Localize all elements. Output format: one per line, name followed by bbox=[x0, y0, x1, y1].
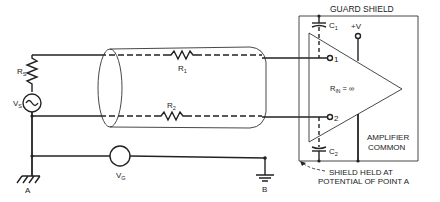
c2-label: C2 bbox=[329, 147, 338, 157]
shielded-cable bbox=[98, 47, 266, 128]
guard-shield-label: GUARD SHIELD bbox=[330, 4, 394, 14]
amplifier-triangle bbox=[309, 33, 402, 142]
r1-resistor bbox=[168, 51, 196, 59]
vg-source-icon bbox=[110, 146, 130, 166]
ground-return bbox=[32, 146, 274, 181]
plus-v-terminal bbox=[356, 34, 361, 39]
junction-dot bbox=[317, 159, 320, 162]
r2-label: R2 bbox=[167, 101, 176, 111]
input-1-terminal bbox=[328, 56, 333, 61]
earth-ground-icon bbox=[256, 175, 274, 181]
source-circuit bbox=[17, 55, 100, 183]
vs-label: VS bbox=[13, 99, 22, 109]
input-1-label: 1 bbox=[334, 55, 339, 64]
rs-resistor bbox=[27, 55, 37, 92]
vg-label: VG bbox=[116, 171, 126, 181]
rin-label: RIN = ∞ bbox=[330, 84, 354, 94]
circuit-diagram: GUARD SHIELD C1 +V 1 2 RIN = ∞ AMPLIFIER… bbox=[0, 0, 440, 202]
ground-wire-right bbox=[130, 156, 265, 158]
plus-v-label: +V bbox=[351, 22, 362, 31]
rs-label: RS bbox=[17, 67, 27, 77]
c1-label: C1 bbox=[329, 21, 338, 31]
amplifier-common-label-2: COMMON bbox=[368, 143, 406, 152]
c1-plate-bottom bbox=[312, 26, 326, 28]
c2-plate-top bbox=[312, 147, 326, 149]
input-2-terminal bbox=[328, 115, 333, 120]
shield-note-line-1: SHIELD HELD AT bbox=[329, 168, 393, 177]
input-2-label: 2 bbox=[334, 114, 339, 123]
labels: GUARD SHIELD C1 +V 1 2 RIN = ∞ AMPLIFIER… bbox=[13, 4, 410, 195]
chassis-ground-icon bbox=[17, 176, 40, 183]
shield-note-line-2: POTENTIAL OF POINT A bbox=[318, 177, 410, 186]
r2-resistor bbox=[158, 112, 186, 120]
sine-wave-icon bbox=[26, 101, 38, 106]
junction-dot bbox=[356, 159, 359, 162]
r1-label: R1 bbox=[178, 64, 187, 74]
amplifier-common-label-1: AMPLIFIER bbox=[367, 133, 409, 142]
point-a-label: A bbox=[25, 186, 31, 195]
point-b-label: B bbox=[262, 185, 267, 194]
